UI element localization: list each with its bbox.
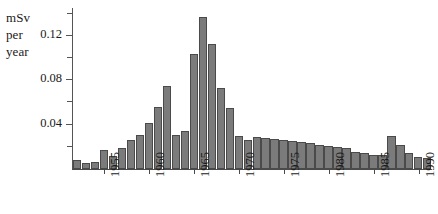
x-axis-tick: [329, 170, 330, 174]
x-axis-tick-label: 1960: [154, 152, 167, 177]
bar: [127, 140, 135, 169]
bar: [73, 160, 81, 169]
bar: [315, 145, 323, 169]
x-axis-tick: [284, 170, 285, 174]
y-axis-tick-label: 0.12: [40, 27, 62, 41]
bar: [217, 88, 225, 169]
bar: [396, 145, 404, 169]
bar: [324, 146, 332, 169]
x-axis-tick-label: 1985: [379, 152, 392, 177]
y-axis-tick-label: 0.04: [40, 116, 62, 130]
x-axis-tick-label: 1955: [109, 152, 122, 177]
bar: [235, 136, 243, 169]
plot-area: 0.040.080.12: [72, 8, 432, 169]
bar: [181, 131, 189, 169]
radiation-dose-bar-chart: mSv per year 0.040.080.12 19551960196519…: [0, 0, 438, 214]
bar: [279, 140, 287, 169]
x-axis-tick: [239, 170, 240, 174]
x-axis-tick-label: 1990: [424, 152, 437, 177]
x-axis-tick: [194, 170, 195, 174]
y-axis-major-tick: 0.04: [66, 124, 73, 125]
x-axis-ticks: 19551960196519701975198019851990: [73, 170, 432, 214]
bar: [270, 139, 278, 169]
bar: [208, 44, 216, 169]
y-axis-title-line-3: year: [6, 43, 52, 60]
x-axis-tick: [374, 170, 375, 174]
bar: [405, 153, 413, 169]
bar: [136, 135, 144, 169]
y-axis-major-tick: 0.12: [66, 35, 73, 36]
bar: [199, 17, 207, 169]
bar: [369, 155, 377, 169]
y-axis-major-tick: 0.08: [66, 79, 73, 80]
bar: [91, 162, 99, 169]
x-axis-tick: [419, 170, 420, 174]
y-axis-title-line-1: mSv: [6, 9, 52, 26]
bar: [145, 123, 153, 169]
bars-layer: [73, 8, 432, 169]
x-axis-tick-label: 1975: [289, 152, 302, 177]
bar: [190, 54, 198, 169]
x-axis-tick-label: 1980: [334, 152, 347, 177]
x-axis-tick-label: 1965: [199, 152, 212, 177]
x-axis-tick: [104, 170, 105, 174]
bar: [306, 143, 314, 169]
bar: [360, 153, 368, 169]
bar: [414, 157, 422, 169]
y-axis-tick-label: 0.08: [40, 71, 62, 85]
bar: [261, 138, 269, 169]
x-axis-tick-label: 1970: [244, 152, 257, 177]
bar: [351, 152, 359, 169]
bar: [226, 108, 234, 169]
bar: [172, 135, 180, 169]
x-axis-tick: [149, 170, 150, 174]
